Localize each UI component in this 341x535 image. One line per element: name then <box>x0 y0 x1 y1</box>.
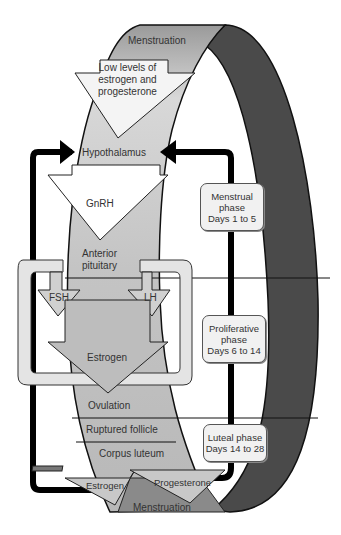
arrow-into-hypothalamus-left <box>60 140 75 164</box>
label-progesterone: Progesterone <box>154 477 211 489</box>
label-anterior-pituitary: Anterior pituitary <box>82 248 117 272</box>
phase-box-luteal: Luteal phase Days 14 to 28 <box>203 424 267 462</box>
corpus-luteum-bar <box>32 466 63 471</box>
label-estrogen-bottom: Estrogen <box>86 480 124 492</box>
label-ruptured-follicle: Ruptured follicle <box>86 424 158 436</box>
label-menstruation-bottom: Menstruation <box>133 502 191 514</box>
label-low-levels: Low levels of estrogen and progesterone <box>98 62 157 98</box>
label-hypothalamus: Hypothalamus <box>82 147 146 159</box>
phase-box-proliferative: Proliferative phase Days 6 to 14 <box>202 315 266 363</box>
label-lh: LH <box>144 292 157 304</box>
label-ovulation: Ovulation <box>88 400 130 412</box>
label-gnrh: GnRH <box>86 198 114 210</box>
label-corpus-luteum: Corpus luteum <box>99 448 164 460</box>
label-fsh: FSH <box>49 292 69 304</box>
phase-box-menstrual: Menstrual phase Days 1 to 5 <box>200 183 264 231</box>
label-menstruation-top: Menstruation <box>128 35 186 47</box>
menstrual-cycle-diagram <box>0 0 341 535</box>
label-estrogen-mid: Estrogen <box>87 352 127 364</box>
